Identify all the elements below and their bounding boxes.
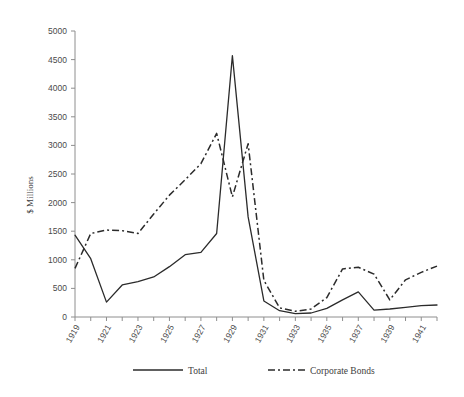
y-tick-label: 2500 [48,169,67,179]
x-tick-label: 1921 [95,323,113,345]
x-tick-label: 1935 [315,323,333,345]
y-tick-label: 500 [53,283,67,293]
y-tick-label: 4000 [48,83,67,93]
x-tick-label: 1923 [127,323,145,345]
legend-item-corporate-bonds: Corporate Bonds [268,366,375,376]
x-tick-label: 1931 [252,323,270,345]
legend-item-total: Total [133,366,208,376]
series-line-corporate-bonds [75,133,437,311]
y-axis-ticks: 0500100015002000250030003500400045005000 [48,26,75,322]
x-tick-label: 1919 [64,323,82,345]
legend-label-total: Total [188,366,208,376]
x-tick-label: 1933 [284,323,302,345]
y-tick-label: 3000 [48,140,67,150]
legend-label-corporate-bonds: Corporate Bonds [310,366,375,376]
chart-legend: Total Corporate Bonds [133,366,375,376]
line-chart: $ Millions 05001000150020002500300035004… [0,0,464,397]
x-tick-label: 1939 [378,323,396,345]
x-tick-label: 1929 [221,323,239,345]
chart-container: $ Millions 05001000150020002500300035004… [0,0,464,397]
x-tick-label: 1925 [158,323,176,345]
y-axis-title: $ Millions [25,176,35,214]
x-tick-label: 1941 [410,323,428,345]
y-tick-label: 3500 [48,112,67,122]
y-tick-label: 0 [62,312,67,322]
x-tick-label: 1927 [190,323,208,345]
x-axis-ticks: 1919192119231925192719291931193319351937… [64,317,437,344]
y-tick-label: 4500 [48,55,67,65]
series-line-total [75,56,437,314]
y-tick-label: 1500 [48,226,67,236]
y-tick-label: 5000 [48,26,67,36]
y-tick-label: 2000 [48,198,67,208]
x-tick-label: 1937 [347,323,365,345]
y-tick-label: 1000 [48,255,67,265]
